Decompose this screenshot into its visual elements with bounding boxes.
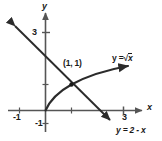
curve-sqrt-x xyxy=(46,66,129,111)
intersection-point-label: (1, 1) xyxy=(63,59,82,68)
curve-label-sqrt-lhs: y = xyxy=(112,53,123,63)
y-axis-label: y xyxy=(42,2,47,11)
curve-label-sqrt-x: y =√x xyxy=(112,53,132,63)
x-tick-label-3: 3 xyxy=(122,113,127,122)
y-tick-label-neg1: -1 xyxy=(35,119,43,128)
math-graph-figure: y x 3 -1 -1 3 y =√x y = 2 - x (1, 1) xyxy=(0,0,162,141)
curve-label-2-minus-x: y = 2 - x xyxy=(116,126,146,135)
x-axis-label: x xyxy=(147,103,152,112)
intersection-dot xyxy=(69,82,73,86)
graph-canvas xyxy=(0,0,162,141)
x-tick-label-neg1: -1 xyxy=(13,113,21,122)
curve-label-sqrt-radicand: x xyxy=(128,53,133,63)
y-tick-label-3: 3 xyxy=(32,28,37,37)
